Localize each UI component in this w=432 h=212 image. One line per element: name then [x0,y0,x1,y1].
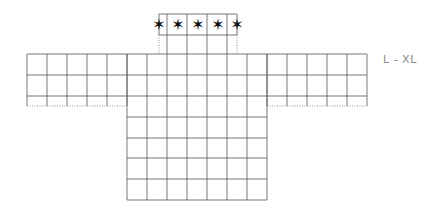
dotted-guides [27,35,367,106]
star-icon: ✶ [211,15,224,34]
chart-grid [27,14,367,200]
star-icon: ✶ [152,15,165,34]
star-icon: ✶ [191,15,204,34]
star-symbols: ✶✶✶✶✶ [152,15,243,34]
star-icon: ✶ [230,15,243,34]
knitting-chart: ✶✶✶✶✶ [0,0,432,212]
size-label: L - XL [383,53,417,66]
star-icon: ✶ [171,15,184,34]
